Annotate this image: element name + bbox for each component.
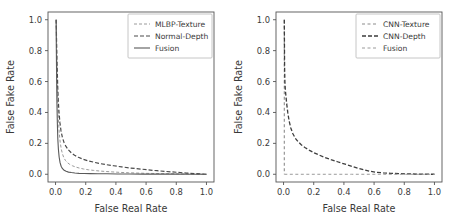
y-tick-label: 1.0 xyxy=(29,15,42,25)
y-axis-title: False Fake Rate xyxy=(233,60,244,134)
x-tick-label: 0.4 xyxy=(337,187,350,197)
legend-label: CNN-Depth xyxy=(383,32,426,41)
x-tick-label: 1.0 xyxy=(200,187,213,197)
legend-label: MLBP-Texture xyxy=(155,20,206,29)
x-tick-label: 0.2 xyxy=(307,187,320,197)
y-tick-label: 0.2 xyxy=(257,138,270,148)
det-curve-plot-1: 0.00.20.40.60.81.00.00.20.40.60.81.0Fals… xyxy=(228,0,456,224)
x-tick-label: 0.2 xyxy=(79,187,92,197)
y-tick-label: 0.6 xyxy=(29,77,42,87)
x-tick-label: 0.0 xyxy=(49,187,62,197)
det-curve-plot-0: 0.00.20.40.60.81.00.00.20.40.60.81.0Fals… xyxy=(0,0,228,224)
x-tick-label: 0.8 xyxy=(170,187,183,197)
x-tick-label: 1.0 xyxy=(428,187,441,197)
legend-label: Fusion xyxy=(155,44,179,53)
x-tick-label: 0.6 xyxy=(367,187,380,197)
y-tick-label: 0.2 xyxy=(29,138,42,148)
y-tick-label: 0.4 xyxy=(29,107,42,117)
x-axis-title: False Real Rate xyxy=(323,203,396,214)
y-tick-label: 0.0 xyxy=(29,169,42,179)
legend-label: CNN-Texture xyxy=(383,20,430,29)
y-tick-label: 0.6 xyxy=(257,77,270,87)
y-tick-label: 0.8 xyxy=(29,46,42,56)
chart-panel-left: 0.00.20.40.60.81.00.00.20.40.60.81.0Fals… xyxy=(0,0,228,224)
x-axis-title: False Real Rate xyxy=(95,203,168,214)
y-axis-title: False Fake Rate xyxy=(5,60,16,134)
x-tick-label: 0.8 xyxy=(398,187,411,197)
chart-panel-right: 0.00.20.40.60.81.00.00.20.40.60.81.0Fals… xyxy=(228,0,456,224)
x-tick-label: 0.4 xyxy=(109,187,122,197)
legend-label: Fusion xyxy=(383,44,407,53)
det-curve-figure: 0.00.20.40.60.81.00.00.20.40.60.81.0Fals… xyxy=(0,0,457,224)
x-tick-label: 0.0 xyxy=(277,187,290,197)
legend-label: Normal-Depth xyxy=(155,32,209,41)
x-tick-label: 0.6 xyxy=(139,187,152,197)
y-tick-label: 0.0 xyxy=(257,169,270,179)
y-tick-label: 1.0 xyxy=(257,15,270,25)
y-tick-label: 0.8 xyxy=(257,46,270,56)
y-tick-label: 0.4 xyxy=(257,107,270,117)
